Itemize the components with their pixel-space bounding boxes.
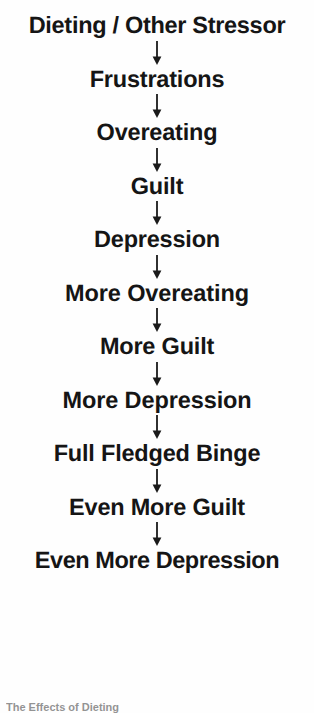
arrow-down-icon (0, 466, 314, 496)
caption-strip: The Effects of Dieting (0, 701, 314, 713)
flow-node-guilt: Guilt (0, 175, 314, 199)
arrow-down-icon (0, 38, 314, 68)
flow-node-overeating: Overeating (0, 121, 314, 145)
flow-node-more-overeating: More Overeating (0, 282, 314, 306)
flow-node-frustrations: Frustrations (0, 68, 314, 92)
arrow-down-icon (0, 305, 314, 335)
arrow-down-icon (0, 519, 314, 549)
flow-node-more-guilt: More Guilt (0, 335, 314, 359)
flow-node-depression: Depression (0, 228, 314, 252)
arrow-down-icon (0, 91, 314, 121)
flow-node-even-more-guilt: Even More Guilt (0, 496, 314, 520)
arrow-down-icon (0, 145, 314, 175)
flow-node-dieting-other-stressor: Dieting / Other Stressor (0, 14, 314, 38)
flow-node-even-more-depression: Even More Depression (0, 549, 314, 573)
flow-node-full-fledged-binge: Full Fledged Binge (0, 442, 314, 466)
flowchart-diagram: Dieting / Other Stressor Frustrations Ov… (0, 0, 314, 713)
arrow-down-icon (0, 198, 314, 228)
arrow-down-icon (0, 252, 314, 282)
arrow-down-icon (0, 412, 314, 442)
caption-text: The Effects of Dieting (6, 701, 119, 713)
arrow-down-icon (0, 359, 314, 389)
flow-node-more-depression: More Depression (0, 389, 314, 413)
